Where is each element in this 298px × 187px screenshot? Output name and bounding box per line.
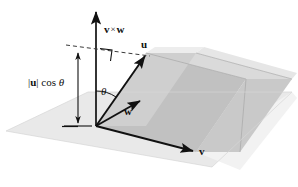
label-height-u-cos-theta: |u| cos θ <box>28 77 64 88</box>
label-bar-close: | <box>36 76 38 88</box>
label-cross-product-v: v <box>104 23 110 35</box>
figure-canvas <box>0 0 298 187</box>
times-icon: × <box>110 24 117 34</box>
label-vector-u: u <box>141 39 147 50</box>
label-cross-product-w: w <box>117 23 125 35</box>
label-height-theta: θ <box>59 76 64 88</box>
label-height-cos: cos <box>41 76 56 88</box>
vector-triple-product-figure: v×w u w v θ |u| cos θ <box>0 0 298 187</box>
label-vector-w: w <box>124 106 132 117</box>
label-cross-product: v×w <box>104 24 125 35</box>
label-vector-v: v <box>199 146 205 157</box>
dashed-projection-line <box>66 45 150 56</box>
label-angle-theta: θ <box>101 86 106 97</box>
